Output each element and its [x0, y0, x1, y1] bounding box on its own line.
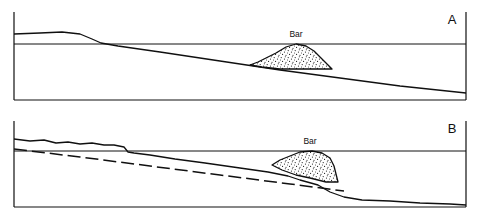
figure-container: Bar A Bar B	[0, 0, 481, 216]
panel-a-bar-label: Bar	[289, 29, 302, 39]
figure-background	[0, 0, 481, 216]
panel-a-label: A	[448, 12, 457, 27]
panel-b-label: B	[448, 121, 457, 136]
cross-section-figure: Bar A Bar B	[0, 0, 481, 216]
panel-b-bar-label: Bar	[303, 136, 316, 146]
